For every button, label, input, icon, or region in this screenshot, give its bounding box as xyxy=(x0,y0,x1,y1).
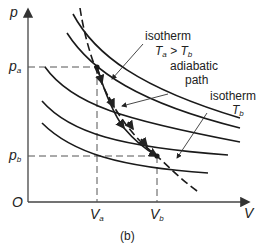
figure-caption: (b) xyxy=(120,230,135,242)
tb2-sub: b xyxy=(239,109,243,118)
isotherm-b-label: isotherm xyxy=(210,90,256,102)
tb-main: T xyxy=(180,44,187,58)
gt-sign: > xyxy=(167,44,181,58)
pb-sub: b xyxy=(17,155,21,164)
pa-sub: a xyxy=(17,66,21,75)
pv-diagram xyxy=(0,0,264,245)
origin-label: O xyxy=(12,196,23,208)
isotherm-a-label: isotherm xyxy=(145,30,191,42)
y-axis-label: p xyxy=(10,6,18,18)
vb-sub: b xyxy=(159,214,163,223)
pa-label: pa xyxy=(9,60,21,77)
isotherm-curve-5-tb xyxy=(0,0,41,100)
state-point-a xyxy=(94,64,99,69)
adiabatic-label-line1: adiabatic xyxy=(170,60,218,72)
x-axis-label: V xyxy=(244,207,253,219)
adiabatic-arrow-3 xyxy=(128,122,133,129)
leader-isotherm-a xyxy=(112,44,143,79)
pa-main: p xyxy=(9,58,17,74)
pb-main: p xyxy=(9,147,17,163)
isotherm-curve-3-ta xyxy=(45,67,240,142)
isotherm-b-temp: Tb xyxy=(232,104,244,120)
va-main: V xyxy=(90,206,99,222)
state-point-b xyxy=(154,153,159,158)
isotherm-curve-2 xyxy=(67,33,240,128)
va-sub: a xyxy=(99,214,103,223)
tb-sub: b xyxy=(188,50,192,59)
vb-label: Vb xyxy=(150,208,164,225)
adiabatic-label-line2: path xyxy=(185,74,208,86)
vb-main: V xyxy=(150,206,159,222)
isotherm-curve-4 xyxy=(42,101,228,155)
pb-label: pb xyxy=(9,149,21,166)
va-label: Va xyxy=(90,208,104,225)
